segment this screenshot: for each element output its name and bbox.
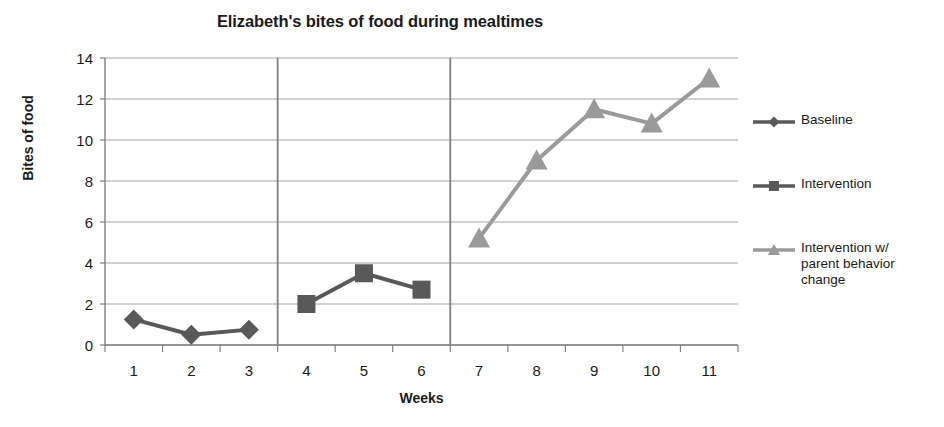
legend-marker-diamond-icon: [769, 117, 780, 128]
chart-container: Elizabeth's bites of food during mealtim…: [0, 0, 944, 427]
y-tick-label: 8: [85, 173, 93, 190]
x-tick-label: 4: [302, 362, 310, 379]
x-tick-label: 5: [360, 362, 368, 379]
y-tick-label: 0: [85, 337, 93, 354]
x-tick-label: 7: [475, 362, 483, 379]
y-tick-label: 12: [76, 91, 93, 108]
series-marker: [239, 320, 259, 340]
y-tick-label: 6: [85, 214, 93, 231]
legend-label: Intervention: [801, 176, 872, 192]
y-tick-label: 10: [76, 132, 93, 149]
series-marker: [698, 68, 720, 88]
axes: [100, 58, 738, 352]
x-tick-label: 8: [532, 362, 540, 379]
legend-item[interactable]: Baseline: [752, 112, 942, 130]
legend-swatch-diamond-icon: [752, 114, 796, 130]
x-axis-tick-labels: 1234567891011: [130, 362, 717, 379]
legend-swatch-square-icon: [752, 178, 796, 194]
legend-label: Baseline: [801, 112, 853, 128]
x-tick-label: 11: [701, 362, 717, 379]
y-tick-label: 2: [85, 296, 93, 313]
y-axis-tick-labels: 02468101214: [76, 50, 93, 354]
legend-item[interactable]: Intervention: [752, 176, 942, 194]
series-marker: [413, 281, 431, 299]
legend-swatch-triangle-icon: [752, 242, 796, 258]
series-marker: [181, 325, 201, 345]
x-tick-label: 1: [130, 362, 138, 379]
chart-legend: BaselineInterventionIntervention w/ pare…: [752, 112, 942, 334]
x-tick-label: 6: [417, 362, 425, 379]
legend-label: Intervention w/ parent behavior change: [801, 240, 895, 288]
x-tick-label: 3: [245, 362, 253, 379]
legend-item[interactable]: Intervention w/ parent behavior change: [752, 240, 942, 288]
series-marker: [355, 264, 373, 282]
series-marker: [297, 295, 315, 313]
data-series: [124, 68, 720, 345]
gridlines: [105, 58, 738, 345]
y-tick-label: 14: [76, 50, 93, 67]
x-tick-label: 2: [187, 362, 195, 379]
series-marker: [583, 98, 605, 118]
y-tick-label: 4: [85, 255, 93, 272]
x-tick-label: 9: [590, 362, 598, 379]
x-tick-label: 10: [643, 362, 660, 379]
series-marker: [124, 309, 144, 329]
legend-marker-square-icon: [769, 181, 779, 191]
